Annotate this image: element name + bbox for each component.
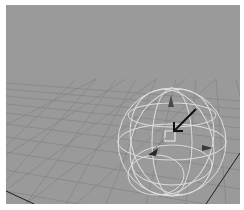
- axis-line-left: [6, 191, 34, 204]
- cone-top-icon[interactable]: [168, 95, 174, 107]
- scene-canvas[interactable]: [6, 5, 240, 204]
- 3d-viewport[interactable]: [6, 5, 240, 204]
